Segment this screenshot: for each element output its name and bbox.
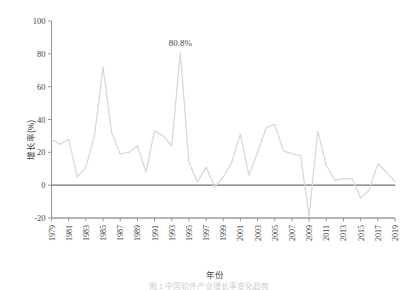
x-tick-label: 1983 (82, 225, 91, 241)
x-tick-label: 2003 (254, 225, 263, 241)
x-tick-label: 2005 (271, 225, 280, 241)
y-tick-label: -20 (34, 213, 45, 223)
x-axis-title: 年份 (206, 270, 224, 280)
x-tick-label: 2001 (236, 225, 245, 241)
x-tick-label: 1993 (168, 225, 177, 241)
y-tick-label: 0 (41, 180, 45, 190)
figure-caption: 图 1 中国软件产业增长率变化趋势 (149, 281, 270, 290)
x-tick-label: 1989 (133, 225, 142, 241)
x-tick-label: 1999 (219, 225, 228, 241)
y-axis-title: 增长率(%) (26, 120, 36, 160)
plot-background (0, 0, 418, 290)
x-tick-label: 2015 (357, 225, 366, 241)
x-tick-label: 1981 (65, 225, 74, 241)
y-tick-label: 80 (37, 49, 46, 59)
y-tick-label: 60 (37, 82, 46, 92)
x-tick-label: 1985 (99, 225, 108, 241)
y-tick-label: 100 (33, 16, 46, 26)
y-tick-label: 40 (37, 115, 46, 125)
x-tick-label: 2017 (374, 225, 383, 241)
y-tick-label: 20 (37, 147, 46, 157)
peak-annotation: 80.8% (169, 38, 193, 48)
x-tick-label: 1987 (116, 225, 125, 241)
x-tick-label: 2007 (288, 225, 297, 241)
annotation-peak-value: 80.8% (169, 38, 193, 48)
x-tick-label: 2013 (339, 225, 348, 241)
x-tick-label: 1995 (185, 225, 194, 241)
x-tick-label: 2009 (305, 225, 314, 241)
x-tick-label: 1991 (151, 225, 160, 241)
chart-figure: -20020406080100 197919811983198519871989… (0, 0, 418, 290)
line-chart: -20020406080100 197919811983198519871989… (0, 0, 418, 290)
x-tick-label: 2019 (391, 225, 400, 241)
x-tick-label: 2011 (322, 225, 331, 241)
x-tick-label: 1997 (202, 225, 211, 241)
x-tick-label: 1979 (48, 225, 57, 241)
